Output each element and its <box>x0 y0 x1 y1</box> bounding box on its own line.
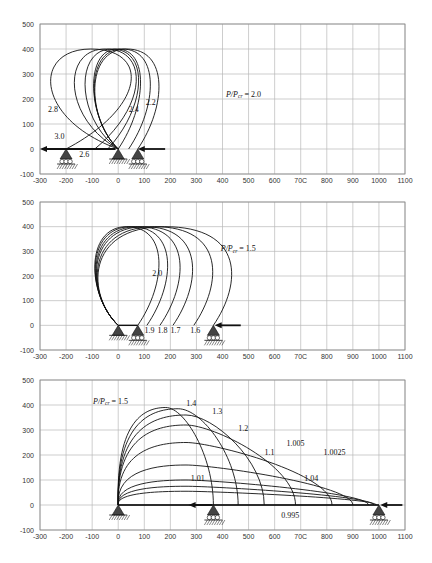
curve-label: 2.8 <box>48 105 58 114</box>
x-tick-label: 0 <box>116 353 120 360</box>
load-ratio-annotation: P/Pcr = 1.5 <box>92 397 128 407</box>
x-tick-label: 300 <box>191 177 203 184</box>
y-tick-label: 100 <box>22 477 34 484</box>
x-tick-label: 70C <box>294 533 307 540</box>
curve-label: 2.0 <box>152 269 162 278</box>
y-axis-ticks: 5004003002001000-100 <box>20 377 34 534</box>
x-tick-label: 500 <box>243 353 255 360</box>
load-arrows <box>40 146 165 152</box>
x-axis-ticks: -300-200-100010020030040050060070C800900… <box>33 353 413 360</box>
x-tick-label: 1000 <box>371 353 387 360</box>
x-tick-label: 400 <box>217 353 229 360</box>
load-ratio-annotation: P/Pcr = 1.5 <box>220 244 256 254</box>
chart-panel-3: -300-200-100010020030040050060070C800900… <box>20 377 413 541</box>
y-tick-label: 0 <box>30 322 34 329</box>
y-tick-label: 400 <box>22 223 34 230</box>
y-tick-label: -100 <box>20 171 34 178</box>
y-tick-label: 300 <box>22 248 34 255</box>
y-tick-label: 500 <box>22 199 34 206</box>
x-tick-label: 200 <box>165 353 177 360</box>
roller-support-icon <box>204 325 225 345</box>
x-tick-label: -100 <box>85 353 99 360</box>
grid <box>40 202 405 350</box>
x-tick-label: 1100 <box>397 353 412 360</box>
curve-1.005 <box>118 486 374 505</box>
y-tick-label: -100 <box>20 347 34 354</box>
x-tick-label: 600 <box>269 177 281 184</box>
roller-support-icon <box>57 149 77 169</box>
roller-support-icon <box>204 505 225 525</box>
x-tick-label: 900 <box>347 177 359 184</box>
curve-label: 1.4 <box>186 399 196 408</box>
x-tick-label: 900 <box>347 533 359 540</box>
x-tick-label: 300 <box>191 533 203 540</box>
x-tick-label: 200 <box>165 533 177 540</box>
load-arrows <box>215 322 241 328</box>
x-tick-label: 200 <box>165 177 177 184</box>
x-tick-label: 70C <box>294 353 307 360</box>
y-axis-ticks: 5004003002001000-100 <box>20 199 34 354</box>
curve-label: 1.01 <box>191 474 205 483</box>
arrow-left-icon <box>40 146 116 152</box>
beam-buckling-charts: -300-200-100010020030040050060070C800900… <box>0 0 432 563</box>
arrow-left-icon <box>380 502 402 508</box>
y-tick-label: 200 <box>22 452 34 459</box>
pin-support-icon <box>109 149 129 164</box>
y-axis-ticks: 5004003002001000-100 <box>20 21 34 178</box>
x-tick-label: -100 <box>85 177 99 184</box>
curve-label: 1.04 <box>304 474 318 483</box>
curve-label: 1.7 <box>171 326 181 335</box>
y-tick-label: 400 <box>22 402 34 409</box>
chart-panel-1: -300-200-100010020030040050060070C800900… <box>20 21 413 185</box>
supports <box>109 505 390 525</box>
y-tick-label: 500 <box>22 21 34 28</box>
x-tick-label: 600 <box>269 533 281 540</box>
load-ratio-annotation: P/Pcr = 2.0 <box>225 90 261 100</box>
y-tick-label: -100 <box>20 527 34 534</box>
x-tick-label: 600 <box>269 353 281 360</box>
x-tick-label: 0 <box>116 533 120 540</box>
curve-label: 1.2 <box>238 424 248 433</box>
x-axis-ticks: -300-200-100010020030040050060070C800900… <box>33 533 413 540</box>
x-tick-label: 1000 <box>371 533 387 540</box>
x-tick-label: -300 <box>33 177 47 184</box>
x-tick-label: -200 <box>59 177 73 184</box>
y-tick-label: 200 <box>22 273 34 280</box>
chart-panel-2: -300-200-100010020030040050060070C800900… <box>20 199 413 361</box>
x-axis-ticks: -300-200-100010020030040050060070C800900… <box>33 177 413 184</box>
x-tick-label: 300 <box>191 353 203 360</box>
curve-label: 1.0025 <box>324 448 346 457</box>
y-tick-label: 400 <box>22 46 34 53</box>
curve-label: 2.6 <box>79 150 89 159</box>
x-tick-label: 800 <box>321 533 333 540</box>
curve-label: 1.6 <box>190 326 200 335</box>
arrow-left-icon <box>215 322 241 328</box>
x-tick-label: 70C <box>294 177 307 184</box>
y-tick-label: 0 <box>30 146 34 153</box>
x-tick-label: -200 <box>59 353 73 360</box>
x-tick-label: 1100 <box>397 177 412 184</box>
x-tick-label: 500 <box>243 533 255 540</box>
x-tick-label: 100 <box>138 177 150 184</box>
curve-label: 1.005 <box>287 439 305 448</box>
supports <box>57 149 149 169</box>
x-tick-label: 1000 <box>371 177 387 184</box>
x-tick-label: 400 <box>217 533 229 540</box>
x-tick-label: 500 <box>243 177 255 184</box>
curve-labels: 1.41.31.21.11.0051.00251.041.010.995 <box>186 399 345 520</box>
roller-support-icon <box>370 505 391 525</box>
y-tick-label: 100 <box>22 121 34 128</box>
pin-support-icon <box>109 505 129 520</box>
y-tick-label: 500 <box>22 377 34 384</box>
curve-1.5 <box>118 408 213 506</box>
x-tick-label: 900 <box>347 353 359 360</box>
x-tick-label: 0 <box>116 177 120 184</box>
y-tick-label: 300 <box>22 427 34 434</box>
arrow-left-icon <box>138 146 165 152</box>
curve-label: 0.995 <box>281 511 299 520</box>
x-tick-label: 1100 <box>397 533 412 540</box>
x-tick-label: -300 <box>33 353 47 360</box>
y-tick-label: 0 <box>30 502 34 509</box>
y-tick-label: 300 <box>22 71 34 78</box>
pin-support-icon <box>109 325 129 340</box>
